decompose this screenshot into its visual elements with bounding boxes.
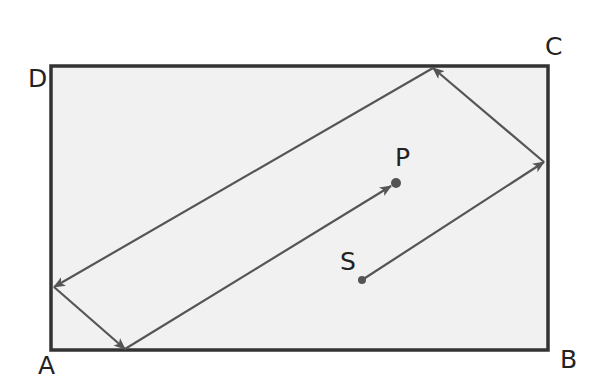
vertex-label-d: D [28, 64, 47, 93]
point-s [358, 276, 366, 284]
point-label-s: S [340, 247, 356, 276]
diagram-canvas: A B C D S P [0, 0, 600, 388]
point-label-p: P [395, 143, 410, 172]
vertex-label-c: C [545, 32, 562, 61]
point-p [391, 178, 401, 188]
vertex-label-b: B [560, 345, 577, 374]
vertex-label-a: A [38, 351, 55, 380]
